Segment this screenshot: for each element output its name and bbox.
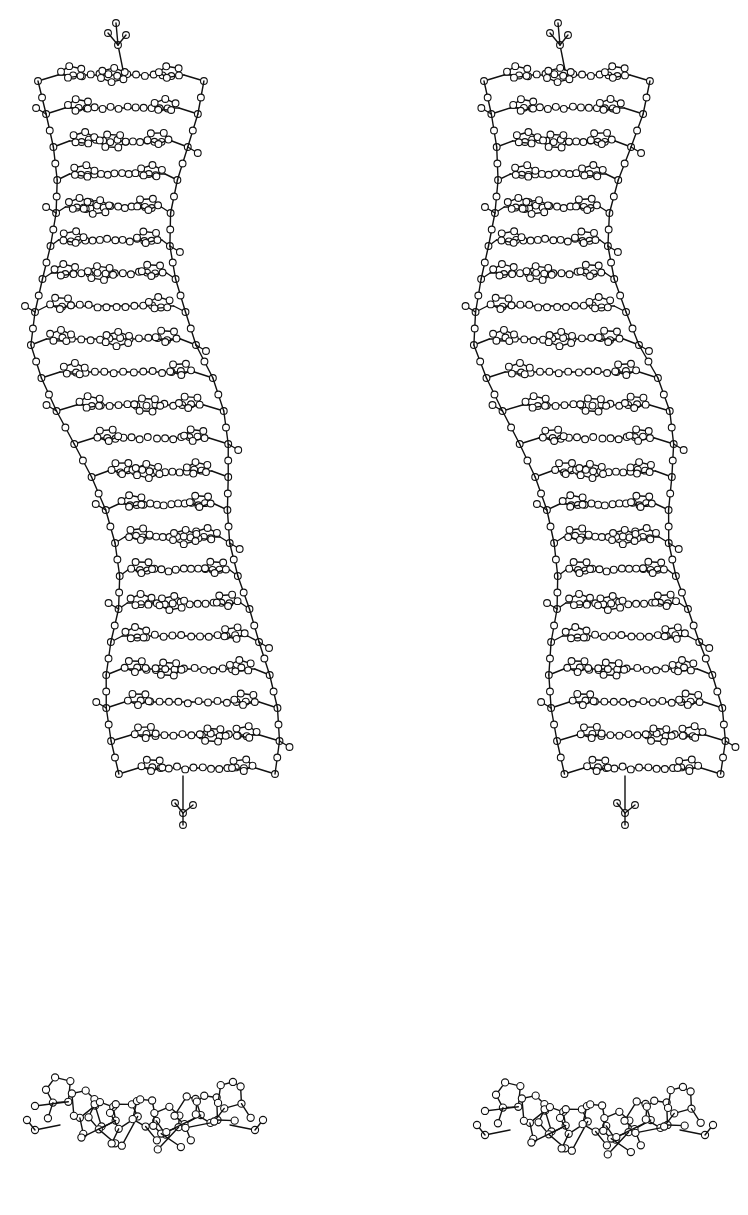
dna-side-view-left (22, 20, 293, 829)
dna-stereo-figure (0, 0, 748, 1215)
dna-end-view-left (23, 1074, 266, 1153)
dna-side-view-right (462, 20, 739, 829)
dna-end-view-right (473, 1079, 716, 1158)
